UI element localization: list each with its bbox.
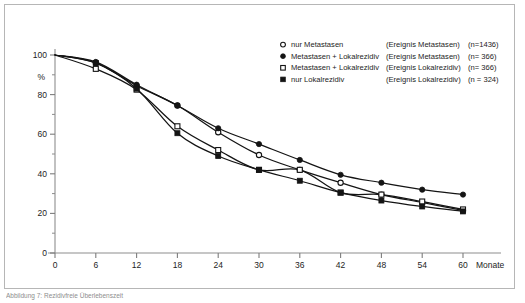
marker-open-circle (281, 42, 286, 47)
legend-n-label: (n=1436) (468, 40, 499, 49)
legend-event-label: (Ereignis Lokalrezidiv) (386, 75, 461, 84)
marker-filled-circle (460, 192, 465, 197)
marker-filled-square (338, 190, 343, 195)
marker-open-circle (338, 180, 343, 185)
y-tick-label: 60 (38, 129, 48, 139)
x-tick-label: 36 (295, 260, 305, 270)
legend-event-label: (Ereignis Lokalrezidiv) (386, 63, 461, 72)
x-tick-label: 54 (417, 260, 427, 270)
marker-filled-circle (216, 126, 221, 131)
legend-entry-2: Metastasen + Lokalrezidiv(Ereignis Lokal… (281, 63, 497, 72)
x-tick-label: 24 (213, 260, 223, 270)
y-tick-label: 0 (42, 248, 47, 258)
marker-filled-circle (338, 172, 343, 177)
legend-n-label: (n= 366) (468, 63, 497, 72)
marker-filled-circle (297, 157, 302, 162)
x-tick-label: 6 (93, 260, 98, 270)
legend-series-name: Metastasen + Lokalrezidiv (291, 63, 379, 72)
legend-series-name: Metastasen + Lokalrezidiv (291, 52, 379, 61)
legend-n-label: (n = 324) (468, 75, 499, 84)
marker-filled-square (257, 167, 262, 172)
y-tick-label: 80 (38, 90, 48, 100)
legend-n-label: (n= 366) (468, 52, 497, 61)
legend-series-name: nur Metastasen (291, 40, 343, 49)
legend-event-label: (Ereignis Metastasen) (386, 40, 460, 49)
marker-filled-square (175, 131, 180, 136)
chart-legend: nur Metastasen(Ereignis Metastasen)(n=14… (281, 40, 499, 84)
legend-entry-0: nur Metastasen(Ereignis Metastasen)(n=14… (281, 40, 499, 49)
marker-open-square (216, 148, 221, 153)
marker-open-square (297, 167, 302, 172)
x-tick-label: 42 (336, 260, 346, 270)
marker-filled-square (379, 198, 384, 203)
marker-open-square (175, 124, 180, 129)
marker-filled-square (134, 86, 139, 91)
marker-filled-circle (281, 54, 286, 59)
y-axis-label: % (37, 72, 45, 82)
marker-filled-square (461, 209, 466, 214)
x-tick-label: 18 (173, 260, 183, 270)
y-tick-label: 100 (33, 50, 47, 60)
x-tick-label: 30 (254, 260, 264, 270)
marker-open-square (420, 199, 425, 204)
y-tick-label: 40 (38, 169, 48, 179)
marker-filled-square (297, 178, 302, 183)
legend-entry-1: Metastasen + Lokalrezidiv(Ereignis Metas… (281, 52, 497, 61)
marker-filled-circle (420, 187, 425, 192)
marker-filled-circle (175, 103, 180, 108)
marker-filled-square (281, 77, 286, 82)
legend-entry-3: nur Lokalrezidiv(Ereignis Lokalrezidiv)(… (281, 75, 499, 84)
legend-event-label: (Ereignis Metastasen) (386, 52, 460, 61)
x-tick-label: 60 (458, 260, 468, 270)
marker-filled-circle (379, 180, 384, 185)
x-tick-label: 0 (53, 260, 58, 270)
marker-open-square (281, 66, 286, 71)
marker-filled-square (420, 204, 425, 209)
marker-filled-circle (256, 141, 261, 146)
figure-caption: Abbildung 7: Rezidivfreie Überlebenszeit (6, 292, 518, 302)
survival-chart: 020406080100%06121824303642485460Monate … (0, 0, 525, 303)
x-tick-label: 48 (377, 260, 387, 270)
x-axis-label: Monate (476, 260, 505, 270)
legend-series-name: nur Lokalrezidiv (291, 75, 344, 84)
marker-filled-square (93, 60, 98, 65)
x-tick-label: 12 (132, 260, 142, 270)
y-tick-label: 20 (38, 208, 48, 218)
marker-open-circle (256, 152, 261, 157)
marker-open-square (93, 66, 98, 71)
marker-filled-square (216, 153, 221, 158)
marker-open-square (379, 192, 384, 197)
